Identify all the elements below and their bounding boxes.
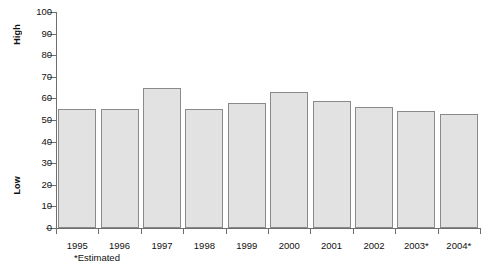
bar [143, 88, 181, 228]
x-axis-tick-label: 2001 [310, 240, 352, 252]
bar [270, 92, 308, 228]
y-axis-tick-label: 70 [30, 71, 52, 82]
x-axis-tick-mark [310, 228, 311, 234]
bar [58, 109, 96, 228]
x-axis-tick-label: 1998 [183, 240, 225, 252]
bar [101, 109, 139, 228]
footnote: *Estimated [74, 252, 120, 264]
bar [355, 107, 393, 228]
plot-area: 1009080706050403020100 19951996199719981… [56, 12, 480, 228]
x-axis-tick-mark [56, 228, 57, 234]
x-axis-tick-mark [438, 228, 439, 234]
y-axis-tick-label: 20 [30, 179, 52, 190]
x-axis-tick-label: 2003* [395, 240, 437, 252]
x-axis-line [46, 228, 480, 229]
x-axis-tick-mark [480, 228, 481, 234]
x-axis-tick-label: 2000 [268, 240, 310, 252]
y-axis-tick-label: 10 [30, 200, 52, 211]
bar [440, 114, 478, 228]
bar [397, 111, 435, 228]
x-axis-tick-mark [395, 228, 396, 234]
bar [228, 103, 266, 228]
y-axis-tick-label: 0 [30, 222, 52, 233]
y-axis-tick-label: 50 [30, 114, 52, 125]
y-axis-line [56, 12, 57, 228]
x-axis-tick-mark [141, 228, 142, 234]
bar [185, 109, 223, 228]
x-axis-tick-label: 2004* [438, 240, 480, 252]
x-axis-tick-label: 1995 [56, 240, 98, 252]
y-axis-tick-label: 100 [30, 6, 52, 17]
y-axis-low-label: Low [0, 176, 34, 197]
x-axis-tick-mark [268, 228, 269, 234]
x-axis-tick-label: 1996 [98, 240, 140, 252]
bar [313, 101, 351, 228]
y-axis-tick-label: 40 [30, 136, 52, 147]
y-axis-tick-label: 60 [30, 92, 52, 103]
y-axis-high-label-text: High [12, 24, 22, 45]
x-axis-tick-mark [183, 228, 184, 234]
y-axis-tick-label: 30 [30, 157, 52, 168]
y-axis-low-label-text: Low [12, 176, 22, 195]
x-axis-tick-label: 1999 [226, 240, 268, 252]
y-axis-high-label: High [0, 24, 34, 47]
x-axis-tick-mark [353, 228, 354, 234]
y-axis-tick-label: 90 [30, 28, 52, 39]
x-axis-tick-label: 2002 [353, 240, 395, 252]
x-axis-tick-label: 1997 [141, 240, 183, 252]
x-axis-tick-mark [98, 228, 99, 234]
y-axis-tick-label: 80 [30, 49, 52, 60]
x-axis-tick-mark [226, 228, 227, 234]
bar-chart: High Low 1009080706050403020100 19951996… [0, 0, 489, 275]
